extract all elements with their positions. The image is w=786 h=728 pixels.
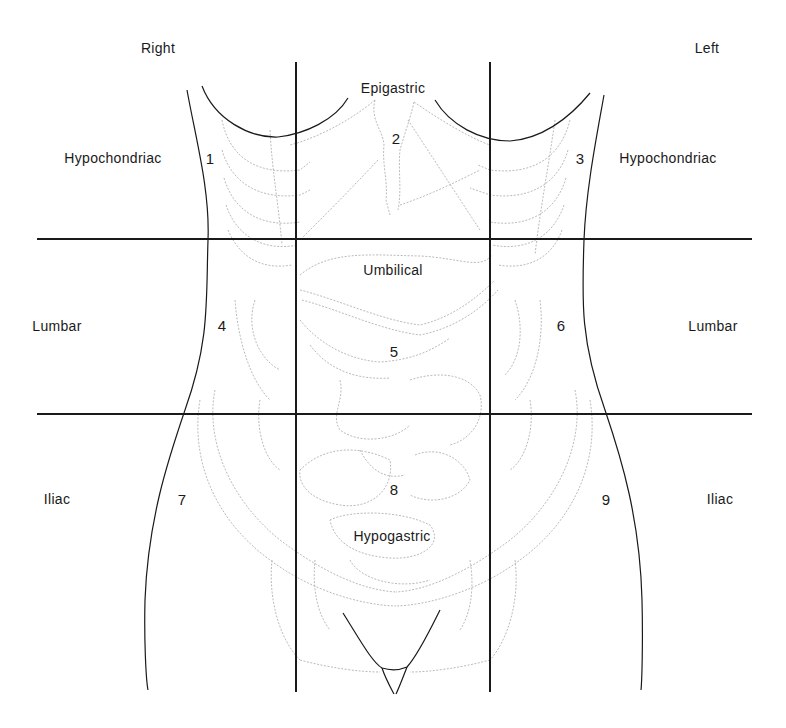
region-3-number: 3: [576, 151, 585, 166]
region-7-number: 7: [178, 492, 187, 507]
region-9-number: 9: [602, 492, 611, 507]
region-9-name: Iliac: [707, 492, 733, 506]
region-1-name: Hypochondriac: [64, 151, 161, 165]
region-1-number: 1: [206, 151, 215, 166]
region-2-number: 2: [392, 131, 401, 146]
region-7-name: Iliac: [44, 492, 70, 506]
region-5-name: Umbilical: [363, 263, 423, 277]
region-6-number: 6: [557, 318, 566, 333]
region-6-name: Lumbar: [688, 319, 737, 333]
right-side-label: Right: [141, 41, 175, 55]
body-outline: [145, 86, 643, 694]
region-8-number: 8: [390, 482, 399, 497]
region-5-number: 5: [390, 344, 399, 359]
region-4-number: 4: [218, 318, 227, 333]
organ-sketches: [198, 100, 592, 672]
abdominal-regions-diagram: [0, 0, 786, 728]
left-side-label: Left: [695, 41, 720, 55]
region-3-name: Hypochondriac: [619, 151, 716, 165]
region-4-name: Lumbar: [32, 319, 81, 333]
region-2-name: Epigastric: [361, 81, 425, 95]
region-8-name: Hypogastric: [353, 529, 430, 543]
